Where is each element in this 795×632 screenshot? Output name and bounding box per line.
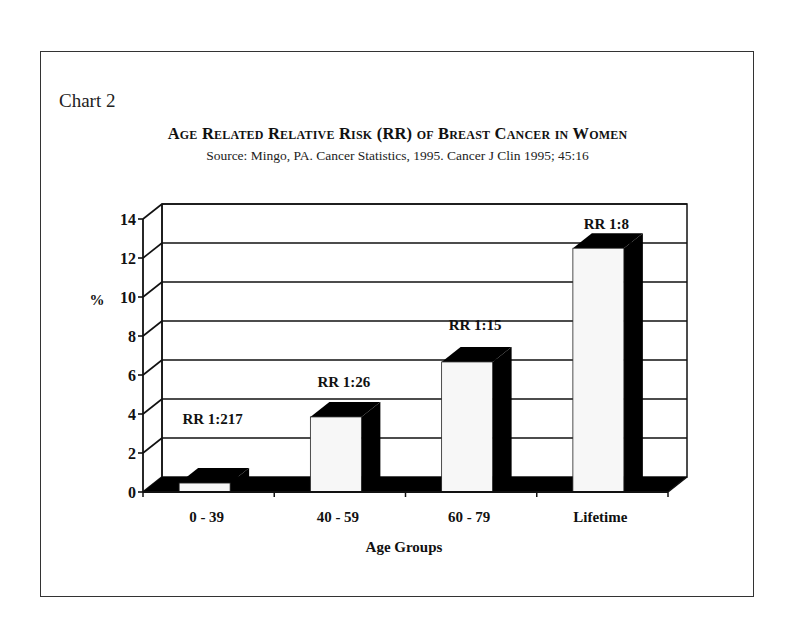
y-axis-title: %	[90, 292, 105, 308]
left-wall-gridline	[143, 399, 162, 414]
bar-front	[179, 483, 230, 492]
y-tick-label: 0	[128, 484, 136, 501]
y-tick-label: 6	[128, 367, 136, 384]
y-tick-label: 4	[128, 406, 136, 423]
bar-side	[493, 347, 512, 492]
x-tick-label: Lifetime	[573, 509, 627, 525]
left-wall-gridline	[143, 438, 162, 453]
x-tick-label: 40 - 59	[317, 509, 360, 525]
y-tick-label: 14	[120, 211, 136, 228]
bar-annotation: RR 1:15	[449, 317, 502, 333]
y-tick-label: 12	[120, 250, 136, 267]
bar-annotation: RR 1:217	[182, 411, 243, 427]
left-wall-gridline	[143, 321, 162, 336]
x-axis-title: Age Groups	[366, 539, 443, 555]
y-tick-label: 10	[120, 289, 136, 306]
x-tick-label: 0 - 39	[189, 509, 224, 525]
left-wall-gridline	[143, 243, 162, 258]
x-tick-label: 60 - 79	[448, 509, 491, 525]
bar-annotation: RR 1:8	[584, 216, 629, 232]
bar-front	[573, 248, 624, 492]
left-wall-gridline	[143, 360, 162, 375]
bar-side	[624, 233, 643, 492]
bar-annotation: RR 1:26	[317, 374, 370, 390]
bar-front	[310, 417, 361, 492]
bar-chart-plot: 02468101214%RR 1:2170 - 39RR 1:2640 - 59…	[0, 0, 795, 632]
y-tick-label: 8	[128, 328, 136, 345]
left-wall-gridline	[143, 282, 162, 297]
y-tick-label: 2	[128, 445, 136, 462]
bar-side	[361, 402, 380, 492]
left-wall-gridline	[143, 204, 162, 219]
bar-front	[442, 362, 493, 492]
